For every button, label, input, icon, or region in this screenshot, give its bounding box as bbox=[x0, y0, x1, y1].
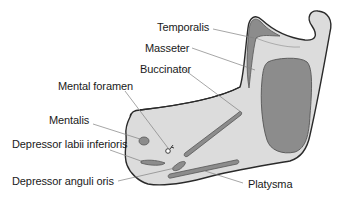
label-temporalis: Temporalis bbox=[157, 21, 209, 33]
label-mental-foramen: Mental foramen bbox=[58, 80, 133, 92]
label-buccinator: Buccinator bbox=[140, 63, 191, 75]
mentalis-attachment bbox=[139, 137, 149, 145]
mandible-muscle-diagram: Temporalis Masseter Buccinator Mental fo… bbox=[0, 0, 345, 200]
label-depressor-labii-inferioris: Depressor labii inferioris bbox=[12, 138, 127, 150]
label-mentalis: Mentalis bbox=[49, 114, 89, 126]
masseter-attachment bbox=[261, 58, 311, 153]
label-masseter: Masseter bbox=[145, 42, 189, 54]
label-platysma: Platysma bbox=[248, 178, 292, 190]
label-depressor-anguli-oris: Depressor anguli oris bbox=[12, 175, 114, 187]
